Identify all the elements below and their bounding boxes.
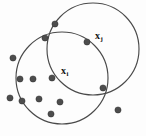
- point-04: [10, 55, 16, 61]
- neighborhood-xj: [47, 3, 139, 95]
- point-14: [115, 107, 121, 113]
- point-05: [49, 75, 55, 81]
- point-03: [84, 39, 90, 45]
- point-09: [19, 98, 25, 104]
- label-base: x: [61, 65, 66, 76]
- label-x-i: xi: [61, 66, 68, 76]
- point-06: [17, 76, 23, 82]
- point-07: [30, 76, 36, 82]
- point-01: [52, 21, 58, 27]
- neighborhood-xi: [16, 32, 108, 124]
- neighborhood-diagram: xi xj: [0, 0, 146, 136]
- point-11: [57, 99, 63, 105]
- label-base: x: [95, 30, 100, 41]
- label-subscript: j: [101, 35, 103, 43]
- point-12: [48, 111, 54, 117]
- label-x-j: xj: [95, 31, 102, 41]
- diagram-canvas: [0, 0, 146, 136]
- neighborhood-circles-group: [16, 3, 139, 124]
- point-13: [100, 85, 106, 91]
- point-02: [42, 35, 48, 41]
- point-10: [36, 96, 42, 102]
- point-08: [7, 95, 13, 101]
